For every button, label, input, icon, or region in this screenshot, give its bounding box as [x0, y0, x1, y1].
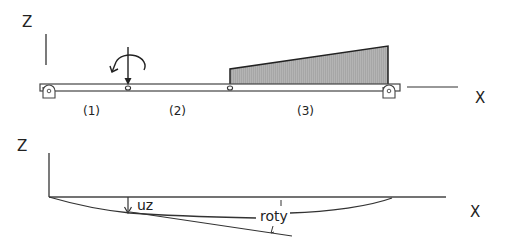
uz-arrow-icon [125, 197, 132, 213]
point-force-arrow-icon [125, 47, 132, 85]
z-axis-label-bottom: Z [17, 137, 27, 155]
hinge-2 [227, 86, 232, 90]
x-axis-label-top: X [475, 89, 485, 107]
beam [40, 84, 400, 91]
z-axis-label-top: Z [22, 13, 32, 31]
beam-diagram: Z [0, 0, 508, 246]
roty-label: roty [260, 208, 288, 224]
uz-label: uz [137, 197, 153, 213]
deflection-diagram: Z X uz roty [17, 137, 480, 236]
segment-label-3: (3) [297, 104, 314, 118]
structure-diagram: Z [22, 13, 485, 118]
x-axis-label-bottom: X [470, 203, 480, 221]
segment-label-1: (1) [83, 104, 100, 118]
left-pin-support [43, 85, 55, 98]
hinge-1 [125, 86, 130, 90]
deflection-curve [49, 197, 392, 218]
right-pin-support [383, 85, 395, 98]
roty-arrow-icon [271, 226, 274, 233]
segment-label-2: (2) [169, 104, 186, 118]
